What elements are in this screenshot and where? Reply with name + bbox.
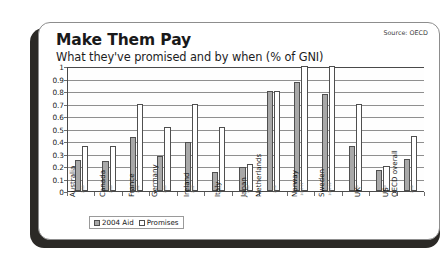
x-axis-label-text: France <box>127 173 136 197</box>
y-axis-tick-label: 0.7 <box>52 100 64 109</box>
chart-legend: 2004 Aid Promises <box>89 216 184 229</box>
bar-group: 2010 <box>205 67 232 191</box>
x-axis-label-text: Japan <box>239 177 248 197</box>
bar-promises: 2010 <box>82 146 88 191</box>
bar-promises: 2006 <box>274 91 280 191</box>
x-axis-label-text: Germany <box>150 164 159 197</box>
y-axis-tick-label: 0.6 <box>52 113 64 122</box>
x-axis-label: Italy <box>204 196 231 240</box>
x-axis-label-text: Ireland <box>181 172 190 197</box>
x-axis-label: OECD overall <box>397 196 424 240</box>
bar-promises: 2013 <box>356 104 362 192</box>
x-axis-label: Netherlands <box>259 196 286 240</box>
bar-promises: 2010 <box>110 146 116 191</box>
legend-swatch-promises-icon <box>139 220 145 226</box>
chart-card: Make Them Pay What they've promised and … <box>38 22 440 240</box>
x-axis-label-text: OECD overall <box>390 150 399 197</box>
x-axis-label-text: Norway <box>290 170 299 197</box>
legend-item-promises: Promises <box>139 218 179 227</box>
page-title: Make Them Pay <box>56 31 191 49</box>
x-axis-label: UK <box>342 196 369 240</box>
x-axis-label: Japan <box>232 196 259 240</box>
x-axis-label-text: Canada <box>98 170 107 197</box>
screenshot-root: Make Them Pay What they've promised and … <box>0 0 447 261</box>
bar-series-container: 201020102012201020072010201020062006-072… <box>68 67 424 191</box>
y-axis-tick-label: 0.1 <box>52 175 64 184</box>
y-axis-tick-label: 0.9 <box>52 75 64 84</box>
y-axis-tick-label: 0.5 <box>52 125 64 134</box>
y-axis-tick-label: 0.4 <box>52 138 64 147</box>
legend-item-aid: 2004 Aid <box>94 218 134 227</box>
bar-group: 2012 <box>123 67 150 191</box>
x-axis-label-text: Italy <box>213 182 222 197</box>
y-axis-tick-label: 0.3 <box>52 150 64 159</box>
y-axis-tick-label: 0.8 <box>52 88 64 97</box>
legend-label-aid: 2004 Aid <box>102 218 134 227</box>
bar-promises: 2012 <box>137 104 143 192</box>
y-axis-tick-label: 0.2 <box>52 163 64 172</box>
x-axis-label: Norway <box>287 196 314 240</box>
bar-group: 2006 <box>260 67 287 191</box>
y-axis: 00.10.20.30.40.50.60.70.80.91 <box>39 67 67 192</box>
bar-promises: 2007 <box>192 104 198 192</box>
page-subtitle: What they've promised and by when (% of … <box>56 50 323 64</box>
bar-promises: 2006 <box>411 136 417 191</box>
bar-group: 2013 <box>342 67 369 191</box>
x-axis-label-text: Australia <box>68 166 77 197</box>
bar-group: 2006 <box>397 67 424 191</box>
x-axis-tick-mark <box>424 192 425 196</box>
source-label: Source: OECD <box>383 29 428 37</box>
x-axis-label: Sweden <box>314 196 341 240</box>
bar-promises: 2010 <box>164 127 170 191</box>
legend-label-promises: Promises <box>147 218 179 227</box>
bar-promises: 2006-07 <box>301 66 307 191</box>
bar-promises: 2006-09 <box>329 66 335 191</box>
x-axis-label-text: UK <box>353 187 362 197</box>
x-axis-label-text: Netherlands <box>254 154 263 197</box>
x-axis-label: US <box>369 196 396 240</box>
legend-swatch-aid-icon <box>94 220 100 226</box>
x-axis-label-text: Sweden <box>317 169 326 197</box>
chart-plot-area: 00.10.20.30.40.50.60.70.80.91 2010201020… <box>39 67 440 240</box>
plot-box: 201020102012201020072010201020062006-072… <box>67 67 424 192</box>
bar-2004-aid <box>267 91 273 191</box>
